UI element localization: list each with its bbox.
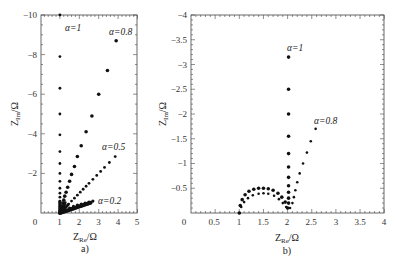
panel-label-a: a) [81, 243, 89, 255]
y-tick-labels-a: −2 −4 −6 −8 −10 [23, 10, 38, 178]
y-tick-label: −1 [177, 158, 187, 168]
x-tick-label: 1 [57, 217, 62, 227]
y-tick-label: −2.5 [171, 84, 188, 94]
y-tick-label: −10 [23, 10, 38, 20]
y-tick-label: −8 [27, 50, 37, 60]
x-tick-label: 1 [237, 217, 242, 227]
x-tick-labels-a: 0 1 2 3 4 5 [33, 217, 140, 227]
y-tick-label: −3 [177, 60, 187, 70]
annotation-alpha-0.8: α=0.8 [314, 116, 338, 126]
y-axis-title-b: ZIm/Ω [157, 102, 170, 126]
x-tick-label: 1.5 [257, 217, 269, 227]
y-tick-label: −2 [27, 168, 37, 178]
x-tick-label: 5 [135, 217, 140, 227]
y-tick-label: −4 [27, 129, 37, 139]
x-tick-label: 0 [182, 217, 187, 227]
x-tick-label: 4 [382, 217, 387, 227]
annotation-alpha-0.2: α=0.2 [98, 196, 122, 206]
panel-a: 0 1 2 3 4 5 −2 −4 −6 −8 −10 ZRe/Ω ZIm/Ω … [9, 10, 140, 255]
panel-label-b: b) [283, 245, 291, 257]
x-tick-label: 3 [334, 217, 339, 227]
panel-b: 0 0.5 1 1.5 2 2.5 3 3.5 4 −0.5 −1 −1.5 −… [157, 10, 387, 257]
x-tick-label: 0 [33, 217, 38, 227]
x-tick-label: 4 [116, 217, 121, 227]
y-tick-labels-b: −0.5 −1 −1.5 −2 −2.5 −3 −3.5 −4 [171, 10, 188, 193]
y-tick-label: −2 [177, 109, 187, 119]
x-tick-label: 2 [77, 217, 82, 227]
figure: 0 1 2 3 4 5 −2 −4 −6 −8 −10 ZRe/Ω ZIm/Ω … [0, 0, 396, 267]
y-tick-label: −4 [177, 10, 187, 20]
y-tick-label: −0.5 [171, 183, 188, 193]
x-axis-title-b: ZRe/Ω [275, 232, 299, 245]
x-tick-label: 2.5 [305, 217, 317, 227]
x-tick-label: 2 [285, 217, 290, 227]
data-points-b [238, 55, 317, 215]
annotation-alpha-0.5: α=0.5 [102, 142, 126, 152]
y-axis-title-a: ZIm/Ω [9, 102, 22, 126]
x-tick-label: 3.5 [354, 217, 366, 227]
annotation-alpha-1: α=1 [287, 43, 303, 53]
data-points-a [58, 14, 118, 215]
annotation-alpha-1: α=1 [65, 23, 81, 33]
y-tick-label: −1.5 [171, 134, 188, 144]
x-tick-label: 3 [96, 217, 101, 227]
annotation-alpha-0.8: α=0.8 [109, 27, 133, 37]
y-tick-label: −3.5 [171, 35, 188, 45]
x-tick-label: 0.5 [208, 217, 220, 227]
x-tick-labels-b: 0 0.5 1 1.5 2 2.5 3 3.5 4 [182, 217, 387, 227]
y-tick-label: −6 [27, 89, 37, 99]
